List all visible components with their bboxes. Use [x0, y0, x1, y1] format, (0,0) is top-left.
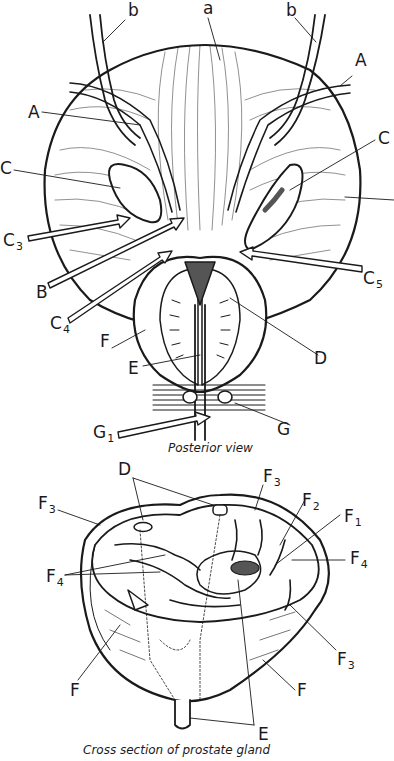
label-D: D — [314, 350, 327, 367]
label-G: G — [277, 421, 290, 438]
label-cs-F-right: F — [297, 682, 307, 699]
label-cs-D: D — [118, 461, 131, 478]
caption-posterior-view: Posterior view — [168, 441, 253, 455]
label-cs-F3-left: F3 — [38, 495, 56, 515]
prostate — [134, 257, 267, 392]
label-cs-F1: F1 — [344, 508, 362, 528]
label-A-left: A — [28, 104, 40, 121]
label-a: a — [203, 0, 213, 17]
label-cs-F2: F2 — [302, 492, 320, 512]
label-C4: C4 — [50, 315, 70, 335]
label-cs-F4-left: F4 — [46, 568, 64, 588]
label-cs-F3-right: F3 — [337, 651, 355, 671]
label-b-right: b — [286, 2, 297, 19]
label-G1: G1 — [93, 424, 114, 444]
label-E: E — [128, 360, 139, 377]
label-cs-E: E — [258, 726, 269, 743]
label-B: B — [36, 284, 48, 301]
caption-cross-section: Cross section of prostate gland — [83, 743, 270, 757]
label-C-right: C — [378, 130, 390, 147]
label-C-left: C — [0, 160, 12, 177]
prostate-cross-section — [81, 495, 329, 729]
label-C5: C5 — [363, 270, 383, 290]
label-F: F — [100, 333, 110, 350]
label-cs-F-left: F — [70, 682, 80, 699]
anatomy-illustration — [0, 0, 394, 761]
label-cs-F3-top: F3 — [263, 468, 281, 488]
label-b-left: b — [128, 2, 139, 19]
label-C3: C3 — [3, 232, 23, 252]
label-cs-F4-right: F4 — [350, 550, 368, 570]
label-A-right: A — [355, 52, 367, 69]
